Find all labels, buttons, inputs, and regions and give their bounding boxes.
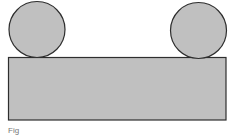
figure-caption: Fig	[8, 126, 19, 135]
diagram	[0, 0, 244, 135]
right-circle	[171, 3, 227, 59]
left-circle	[9, 2, 65, 58]
rectangular-block	[9, 58, 227, 121]
